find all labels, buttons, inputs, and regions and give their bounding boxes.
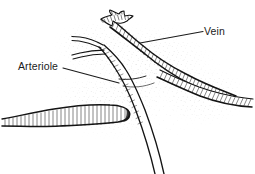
label-arteriole: Arteriole — [18, 61, 58, 72]
vessel-illustration-figure: Vein Arteriole — [0, 0, 255, 174]
label-vein: Vein — [204, 26, 225, 37]
